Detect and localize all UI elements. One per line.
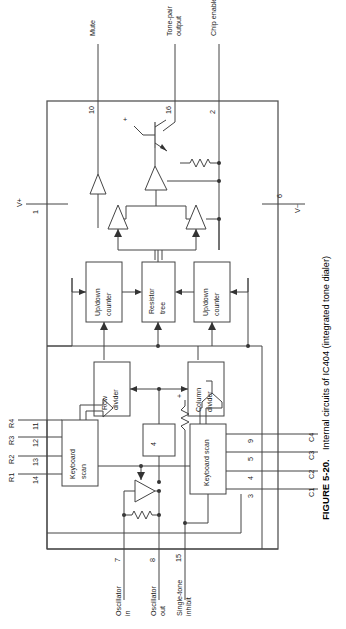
junction-dot-r1: [217, 161, 221, 165]
label-r1: R1: [7, 473, 16, 482]
label-c4: C4: [307, 433, 316, 442]
arrow-restree-bottom: [154, 322, 162, 330]
bus-restree-left: [118, 243, 155, 260]
arrow-osc-amp-in: [137, 472, 145, 480]
block-up-down-counter-left: [86, 262, 122, 322]
output-amplifier: [145, 166, 167, 190]
block-label-kbscan-col: Keyboard scan: [203, 439, 211, 486]
resistor-chip-enable: [180, 159, 219, 167]
label-r4: R4: [7, 419, 16, 428]
arrow-clock-left: [130, 386, 137, 392]
wire-pin16-collector: [163, 115, 175, 131]
block-label-kbscan-row-line2: scan: [80, 464, 87, 479]
summing-amp-right: [186, 205, 206, 229]
label-r2: R2: [7, 455, 16, 464]
arrow-ctrleft-in: [79, 289, 86, 295]
block-label-updown-right-line2: counter: [213, 292, 220, 316]
label-vminus: V−: [293, 204, 302, 213]
mute-buffer-amp: [90, 174, 106, 194]
arrow-ctrright-restree: [175, 289, 182, 295]
bus-restree-right: [162, 243, 196, 260]
junction-dot-div4: [157, 480, 161, 484]
wire-return-inner-bottom: [47, 494, 241, 533]
arrow-clock-right: [181, 386, 188, 392]
block-label-divider-4: 4: [150, 442, 157, 446]
arrow-rowdiv-ctrleft: [100, 322, 108, 330]
arrow-sum-right: [192, 229, 200, 237]
label-oscillator-in-line2: in: [123, 610, 132, 616]
bus-feedback-left: [47, 278, 72, 346]
pin-14: 14: [31, 476, 40, 484]
label-mute: Mute: [88, 20, 97, 36]
label-single-tone-inhibit-line1: Single-tone: [175, 580, 184, 616]
pin-8: 8: [148, 558, 157, 562]
label-chip-enable: Chip enable: [209, 0, 218, 36]
junction-dot-r2: [217, 179, 221, 183]
label-c1: C1: [307, 488, 316, 497]
block-label-updown-right-line1: Up/down: [202, 288, 210, 316]
transistor-emitter-arrow: [160, 144, 167, 151]
pin-11: 11: [31, 423, 40, 430]
label-tone-pair-output-line2: output: [174, 16, 183, 36]
figure-container: Mute 10 Tone-pair output 16 Chip enable …: [0, 0, 346, 629]
block-label-updown-left-line2: counter: [105, 292, 112, 316]
label-plus-transistor: +: [123, 115, 127, 124]
pin-6: 6: [275, 194, 284, 198]
arrow-sum-left: [114, 229, 122, 237]
label-single-tone-inhibit-line2: inhibit: [184, 597, 193, 616]
arrow-ctrleft-restree: [135, 289, 142, 295]
arrow-ctrright-in: [230, 289, 237, 295]
label-tone-pair-output-line1: Tone-pair: [165, 5, 174, 36]
oscillator-amplifier: [135, 480, 155, 502]
pin-16: 16: [164, 106, 173, 114]
pin-9: 9: [246, 439, 255, 443]
figure-caption: Internal circuits of IC404 (integrated t…: [321, 256, 331, 450]
wire-kbcol-return: [185, 494, 208, 523]
pin-1: 1: [31, 210, 40, 214]
pin-10: 10: [87, 106, 96, 114]
arrow-coldiv-ctrright: [208, 322, 216, 330]
label-vplus: V+: [15, 198, 24, 207]
label-c2: C2: [307, 470, 316, 479]
block-label-resistor-tree-line2: tree: [159, 302, 166, 314]
transistor-collector: [155, 120, 166, 127]
block-label-resistor-tree-line1: Resistor: [148, 288, 155, 314]
label-oscillator-out-line2: out: [158, 606, 167, 616]
bus-feedback-right: [248, 278, 262, 346]
block-label-updown-left-line1: Up/down: [94, 288, 102, 316]
block-label-column-divider-line2: divider: [206, 391, 213, 412]
transistor-base-lead: [134, 126, 155, 135]
block-label-kbscan-row-line1: Keyboard: [69, 449, 77, 479]
pin-12: 12: [31, 439, 40, 447]
block-label-row-divider-line2: divider: [112, 389, 119, 410]
label-oscillator-out-line1: Oscillator: [149, 585, 158, 616]
figure-number: FIGURE 5-20.: [320, 459, 331, 520]
circuit-schematic: Mute 10 Tone-pair output 16 Chip enable …: [0, 0, 346, 629]
pin-4: 4: [246, 476, 255, 480]
pin-5: 5: [246, 457, 255, 461]
pin-7: 7: [113, 558, 122, 562]
label-plus-inhibit: +: [175, 394, 184, 398]
summing-amp-left: [108, 205, 128, 229]
pin-13: 13: [31, 458, 40, 466]
pin-15: 15: [174, 554, 183, 562]
block-up-down-counter-right: [194, 262, 230, 322]
block-divider-4: [143, 424, 175, 456]
pin-2: 2: [208, 110, 217, 114]
pin-3: 3: [246, 494, 255, 498]
label-r3: R3: [7, 436, 16, 445]
resistor-oscillator-feedback: [124, 511, 159, 519]
label-c3: C3: [307, 451, 316, 460]
wire-ctrright-fb: [230, 278, 248, 292]
label-oscillator-in-line1: Oscillator: [114, 585, 123, 616]
